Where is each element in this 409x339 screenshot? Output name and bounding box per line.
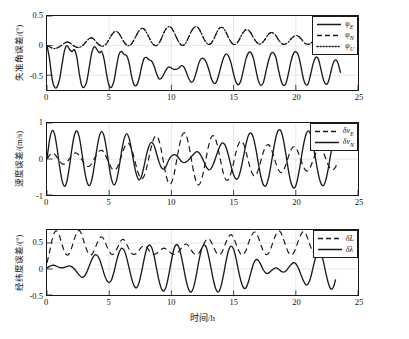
y-tick-label: -0.5 [30, 71, 43, 81]
x-tick-label: 0 [44, 92, 48, 102]
legend-item-phi_N[interactable]: φN [316, 30, 354, 41]
x-tick-label: 20 [292, 92, 301, 102]
series-dL [47, 230, 346, 262]
x-tick-label: 15 [230, 92, 239, 102]
x-tick-label: 10 [167, 197, 176, 207]
series-phi_E [47, 46, 341, 88]
x-tick-label: 20 [292, 297, 301, 307]
y-tick-label: 0.5 [32, 237, 43, 247]
legend-swatch-dashed [316, 31, 342, 40]
legend-item-dv_N[interactable]: δvN [314, 137, 354, 148]
y-tick-label: 1 [39, 117, 43, 127]
legend-1[interactable]: φEφNφU [312, 16, 358, 55]
y-tick-label: -1 [36, 191, 43, 201]
y-tick-label: 0 [39, 154, 43, 164]
legend-label-phi_E: φE [345, 19, 353, 30]
y-tick-label: 0 [39, 40, 43, 50]
legend-swatch-solid [314, 138, 340, 147]
x-tick-label: 10 [167, 92, 176, 102]
legend-label-phi_N: φN [345, 30, 353, 41]
plot-lines-3 [47, 230, 358, 295]
x-tick-label: 5 [106, 92, 110, 102]
legend-swatch-dashed [314, 127, 340, 136]
y-tick-label: 0.5 [32, 10, 43, 20]
x-tick-label: 10 [167, 297, 176, 307]
y-axis-label-3: 经纬度误差/(°) [12, 234, 24, 290]
legend-item-dlambda[interactable]: δλ [317, 244, 354, 255]
y-axis-label-1: 失准角误差/(°) [12, 25, 24, 81]
legend-label-dv_E: δvE [343, 126, 354, 137]
x-tick-label: 15 [230, 297, 239, 307]
y-tick-label: -0.5 [30, 291, 43, 301]
legend-2[interactable]: δvEδvN [310, 123, 358, 151]
x-axis-label: 时间/h [190, 311, 215, 324]
x-tick-label: 5 [106, 197, 110, 207]
legend-label-dL: δL [346, 234, 354, 243]
legend-label-phi_U: φU [345, 41, 354, 52]
figure-canvas: -0.500.50510152025失准角误差/(°)φEφNφU-101051… [0, 0, 409, 339]
legend-item-phi_U[interactable]: φU [316, 41, 354, 52]
x-tick-label: 5 [106, 297, 110, 307]
subplot-1: -0.500.50510152025失准角误差/(°)φEφNφU [46, 15, 359, 91]
subplot-3: -0.500.50510152025经纬度误差/(°)时间/hδLδλ [46, 229, 359, 296]
y-tick-label: 0 [39, 264, 43, 274]
series-dlambda [47, 244, 336, 292]
legend-item-dL[interactable]: δL [317, 233, 354, 244]
legend-3[interactable]: δLδλ [313, 230, 358, 258]
legend-label-dlambda: δλ [346, 245, 353, 254]
legend-item-phi_E[interactable]: φE [316, 19, 354, 30]
legend-swatch-dashed [317, 234, 343, 243]
series-phi_U [47, 27, 341, 49]
legend-label-dv_N: δvN [343, 137, 354, 148]
x-tick-label: 25 [355, 92, 364, 102]
subplot-2: -1010510152025速度误差/(m/s)δvEδvN [46, 122, 359, 196]
y-axis-label-2: 速度误差/(m/s) [12, 131, 24, 187]
x-tick-label: 25 [355, 297, 364, 307]
legend-swatch-solid [317, 245, 343, 254]
x-tick-label: 0 [44, 197, 48, 207]
gridlines-3 [47, 230, 358, 295]
legend-swatch-solid [316, 20, 342, 29]
x-tick-label: 25 [355, 197, 364, 207]
x-tick-label: 15 [230, 197, 239, 207]
x-tick-label: 0 [44, 297, 48, 307]
legend-swatch-dotted [316, 42, 342, 51]
x-tick-label: 20 [292, 197, 301, 207]
legend-item-dv_E[interactable]: δvE [314, 126, 354, 137]
